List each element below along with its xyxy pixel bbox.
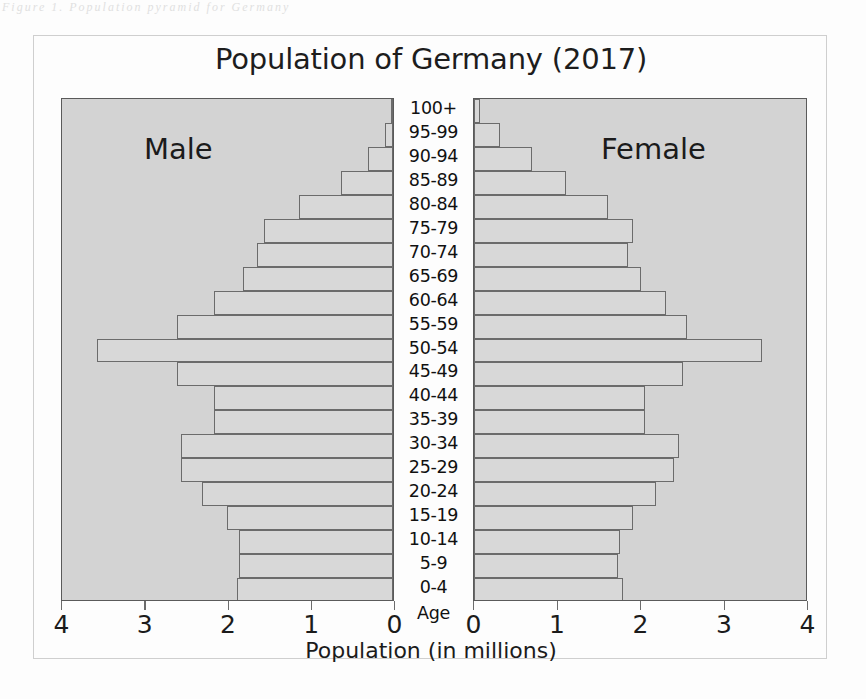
bar-male-25-29 [181, 458, 393, 482]
bar-female-65-69 [474, 267, 641, 291]
bar-male-90-94 [368, 147, 393, 171]
bar-female-5-9 [474, 554, 618, 578]
age-label-25-29: 25-29 [394, 456, 473, 480]
xaxis-right-2-label: 2 [621, 610, 661, 639]
age-label-80-84: 80-84 [394, 193, 473, 217]
scan-top-caption: Figure 1. Population pyramid for Germany [0, 0, 866, 16]
age-label-0-4: 0-4 [394, 576, 473, 600]
bar-female-75-79 [474, 219, 633, 243]
bar-female-15-19 [474, 506, 633, 530]
bar-female-50-54 [474, 339, 762, 363]
bar-female-90-94 [474, 147, 532, 171]
bar-female-95-99 [474, 123, 500, 147]
xaxis-left-4-tick [61, 601, 62, 610]
age-label-55-59: 55-59 [394, 313, 473, 337]
scanned-page: Figure 1. Population pyramid for Germany… [0, 0, 866, 699]
xaxis-right-1-tick [557, 601, 558, 610]
male-plot-panel [61, 98, 394, 601]
xaxis-right-4-label: 4 [788, 610, 828, 639]
bar-male-80-84 [299, 195, 393, 219]
bar-male-55-59 [177, 315, 393, 339]
xaxis-left-0-label: 0 [375, 610, 415, 639]
age-label-10-14: 10-14 [394, 528, 473, 552]
bar-male-5-9 [239, 554, 393, 578]
age-label-70-74: 70-74 [394, 241, 473, 265]
xaxis-right-0-tick [473, 601, 474, 610]
bar-male-85-89 [341, 171, 393, 195]
bar-male-95-99 [385, 123, 393, 147]
female-plot-panel [473, 98, 807, 601]
bar-female-60-64 [474, 291, 666, 315]
bar-male-70-74 [257, 243, 393, 267]
xaxis-left-3-tick [144, 601, 145, 610]
age-label-90-94: 90-94 [394, 145, 473, 169]
bar-male-60-64 [214, 291, 393, 315]
xaxis-left-4-label: 4 [42, 610, 82, 639]
age-label-100+: 100+ [394, 97, 473, 121]
age-label-60-64: 60-64 [394, 289, 473, 313]
bar-female-85-89 [474, 171, 566, 195]
xaxis-right-3-label: 3 [704, 610, 744, 639]
bar-male-0-4 [237, 578, 393, 601]
age-label-strip: 100+95-9990-9485-8980-8475-7970-7465-696… [394, 96, 473, 616]
bar-male-15-19 [227, 506, 394, 530]
bar-male-30-34 [181, 434, 393, 458]
xaxis-left-1-tick [311, 601, 312, 610]
bar-female-70-74 [474, 243, 628, 267]
xaxis-right-3-tick [724, 601, 725, 610]
age-label-15-19: 15-19 [394, 504, 473, 528]
age-label-85-89: 85-89 [394, 169, 473, 193]
age-label-65-69: 65-69 [394, 265, 473, 289]
age-label-40-44: 40-44 [394, 384, 473, 408]
age-label-95-99: 95-99 [394, 121, 473, 145]
bar-male-40-44 [214, 386, 393, 410]
age-label-45-49: 45-49 [394, 360, 473, 384]
xaxis-left-3-label: 3 [125, 610, 165, 639]
bar-male-50-54 [97, 339, 393, 363]
xaxis-right-0-label: 0 [454, 610, 494, 639]
xaxis-left-1-label: 1 [291, 610, 331, 639]
female-caption: Female [601, 132, 706, 166]
male-caption: Male [144, 132, 213, 166]
bar-male-100+ [391, 99, 393, 123]
xaxis-right-4-tick [807, 601, 808, 610]
bar-female-40-44 [474, 386, 645, 410]
age-label-5-9: 5-9 [394, 552, 473, 576]
xaxis-right-2-tick [640, 601, 641, 610]
bar-female-45-49 [474, 362, 683, 386]
bar-female-55-59 [474, 315, 687, 339]
age-label-30-34: 30-34 [394, 432, 473, 456]
bar-female-80-84 [474, 195, 608, 219]
chart-title: Population of Germany (2017) [34, 42, 828, 76]
bar-female-10-14 [474, 530, 620, 554]
age-label-35-39: 35-39 [394, 408, 473, 432]
chart-figure: Population of Germany (2017) 100+95-9990… [33, 35, 827, 659]
xaxis-left-2-tick [228, 601, 229, 610]
bar-male-10-14 [239, 530, 393, 554]
bar-female-0-4 [474, 578, 623, 601]
xaxis-left-2-label: 2 [208, 610, 248, 639]
x-axis-title: Population (in millions) [34, 638, 828, 663]
age-label-20-24: 20-24 [394, 480, 473, 504]
bar-female-20-24 [474, 482, 656, 506]
bar-female-25-29 [474, 458, 674, 482]
bar-male-75-79 [264, 219, 393, 243]
xaxis-left-0-tick [394, 601, 395, 610]
age-label-50-54: 50-54 [394, 337, 473, 361]
bar-female-35-39 [474, 410, 645, 434]
xaxis-right-1-label: 1 [537, 610, 577, 639]
bar-male-65-69 [243, 267, 393, 291]
bar-male-35-39 [214, 410, 393, 434]
bar-female-100+ [474, 99, 480, 123]
bar-male-20-24 [202, 482, 393, 506]
bar-female-30-34 [474, 434, 679, 458]
age-label-75-79: 75-79 [394, 217, 473, 241]
bar-male-45-49 [177, 362, 393, 386]
